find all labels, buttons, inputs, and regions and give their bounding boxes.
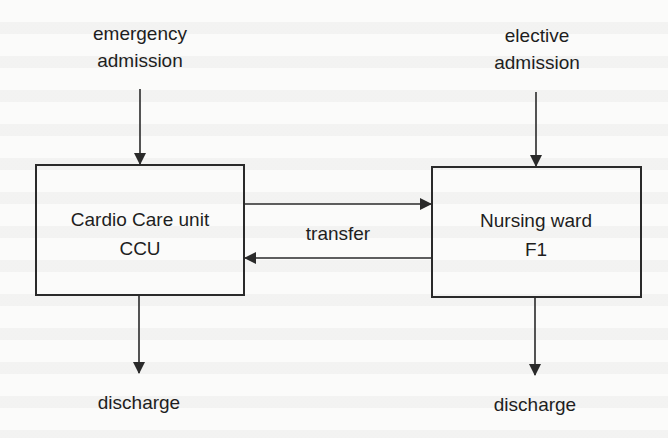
elective-admission-label: elective admission — [494, 22, 580, 76]
elective-admission-label-line1: elective — [494, 22, 580, 49]
f1-box-label-line1: Nursing ward — [480, 206, 592, 235]
emergency-admission-label: emergency admission — [93, 20, 187, 74]
f1-box-label-line2: F1 — [480, 235, 592, 264]
ccu-discharge-label: discharge — [98, 389, 180, 416]
transfer-label: transfer — [306, 220, 370, 247]
ccu-box-label: Cardio Care unit CCU — [71, 205, 209, 263]
f1-discharge-label: discharge — [494, 391, 576, 418]
ccu-box-label-line1: Cardio Care unit — [71, 205, 209, 234]
ccu-box-label-line2: CCU — [71, 234, 209, 263]
f1-box-label: Nursing ward F1 — [480, 206, 592, 264]
emergency-admission-label-line1: emergency — [93, 20, 187, 47]
elective-admission-label-line2: admission — [494, 49, 580, 76]
diagram-canvas: emergency admission elective admission C… — [0, 0, 668, 438]
emergency-admission-label-line2: admission — [93, 47, 187, 74]
